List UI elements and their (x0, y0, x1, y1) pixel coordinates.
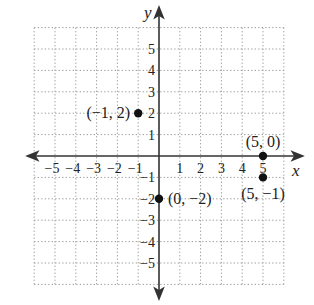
data-point (134, 109, 142, 117)
y-tick-label: 2 (148, 106, 155, 121)
x-tick-label: −5 (45, 161, 60, 176)
y-tick-label: −3 (140, 213, 155, 228)
y-tick-label: 5 (148, 42, 155, 57)
x-tick-label: 1 (176, 161, 183, 176)
x-tick-label: −2 (107, 161, 122, 176)
x-tick-label: 3 (218, 161, 225, 176)
y-tick-label: 4 (148, 63, 155, 78)
y-axis-label: y (142, 3, 152, 22)
y-tick-label: −4 (140, 235, 155, 250)
point-label: (5, −1) (241, 185, 285, 203)
y-tick-label: 3 (148, 85, 155, 100)
y-tick-label: 1 (148, 128, 155, 143)
x-tick-label: −3 (86, 161, 101, 176)
x-tick-label: 2 (197, 161, 204, 176)
data-point (155, 195, 163, 203)
x-tick-label: −4 (65, 161, 80, 176)
x-axis-label: x (291, 161, 300, 180)
y-tick-label: −1 (140, 170, 155, 185)
point-label: (5, 0) (246, 133, 281, 151)
y-tick-label: −5 (140, 256, 155, 271)
data-point (259, 152, 267, 160)
x-tick-label: 4 (239, 161, 246, 176)
data-point (259, 173, 267, 181)
point-label: (0, −2) (168, 190, 212, 208)
coordinate-plane: −5−4−3−2−112345−5−4−3−2−112345 (−1, 2)(5… (0, 0, 314, 305)
point-label: (−1, 2) (87, 104, 131, 122)
y-tick-label: −2 (140, 192, 155, 207)
